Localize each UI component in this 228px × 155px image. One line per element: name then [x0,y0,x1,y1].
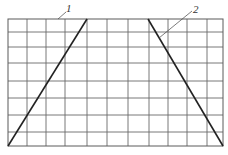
label-2: 2 [193,3,199,15]
leader-line-1 [58,12,66,19]
trapezoid-grid-diagram: 1 2 [0,0,228,155]
line-1 [8,19,87,146]
label-1: 1 [66,2,72,14]
grid-lines [8,19,223,146]
grid-frame [8,19,223,146]
